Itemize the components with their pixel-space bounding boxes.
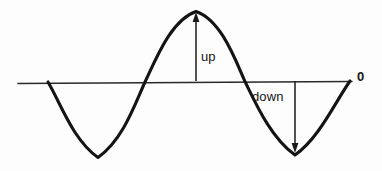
zero-axis-label: 0: [357, 70, 364, 84]
up-annotation-label: up: [201, 50, 216, 64]
wave-diagram-canvas: [0, 0, 382, 171]
zero-axis-line: [18, 82, 352, 84]
down-annotation-label: down: [252, 90, 283, 104]
sine-wave-curve: [48, 12, 350, 158]
sine-wave-figure: up down 0: [0, 0, 382, 171]
